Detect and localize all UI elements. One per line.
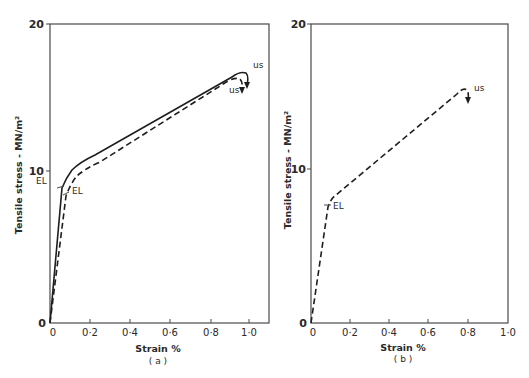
panel-caption: ( a ) bbox=[149, 356, 167, 366]
xtick-label: 0·6 bbox=[162, 327, 178, 338]
xtick-label: 0 bbox=[310, 327, 316, 338]
xtick-label: 1·0 bbox=[241, 327, 257, 338]
arrow-down-icon bbox=[244, 82, 250, 89]
xtick-label: 0·8 bbox=[203, 327, 219, 338]
arrow-down-icon bbox=[239, 87, 245, 94]
el-label-dashed: EL bbox=[72, 186, 83, 196]
arrow-down-icon bbox=[465, 97, 471, 104]
panel-b: 20 10 0 0 0·2 0·4 0·6 0·8 1·0 Strain % (… bbox=[282, 18, 516, 364]
panel-b-frame bbox=[311, 24, 508, 323]
figure: 20 10 0 0 0·2 0·4 0·6 0·8 1·0 Strain % (… bbox=[0, 0, 529, 378]
panel-a-frame bbox=[50, 24, 269, 323]
ytick-label: 20 bbox=[291, 18, 307, 31]
xtick-label: 0·2 bbox=[342, 327, 358, 338]
panel-caption: ( b ) bbox=[394, 354, 412, 364]
ytick-label: 10 bbox=[291, 163, 307, 176]
xtick-label: 0·2 bbox=[82, 327, 98, 338]
us-label-solid: us bbox=[253, 60, 264, 70]
x-axis-label: Strain % bbox=[380, 342, 426, 353]
panel-a: 20 10 0 0 0·2 0·4 0·6 0·8 1·0 Strain % (… bbox=[13, 18, 269, 366]
xtick-label: 0·4 bbox=[381, 327, 397, 338]
xtick-label: 0·8 bbox=[460, 327, 476, 338]
ytick-label: 0 bbox=[299, 317, 307, 330]
us-label: us bbox=[474, 83, 485, 93]
y-axis-label: Tensile stress - MN/m² bbox=[282, 111, 293, 229]
xtick-label: 0·4 bbox=[122, 327, 138, 338]
y-axis-label: Tensile stress - MN/m² bbox=[13, 116, 24, 234]
dashed-curve bbox=[50, 78, 242, 323]
us-label-dashed: us bbox=[229, 85, 240, 95]
solid-curve bbox=[50, 73, 248, 324]
el-label-solid: EL bbox=[36, 176, 47, 186]
el-label: EL bbox=[333, 201, 344, 211]
ytick-label: 20 bbox=[29, 18, 45, 31]
ytick-label: 0 bbox=[38, 317, 46, 330]
xtick-label: 1·0 bbox=[500, 327, 516, 338]
xtick-label: 0·6 bbox=[420, 327, 436, 338]
x-axis-label: Strain % bbox=[135, 343, 181, 354]
xtick-label: 0 bbox=[50, 327, 56, 338]
